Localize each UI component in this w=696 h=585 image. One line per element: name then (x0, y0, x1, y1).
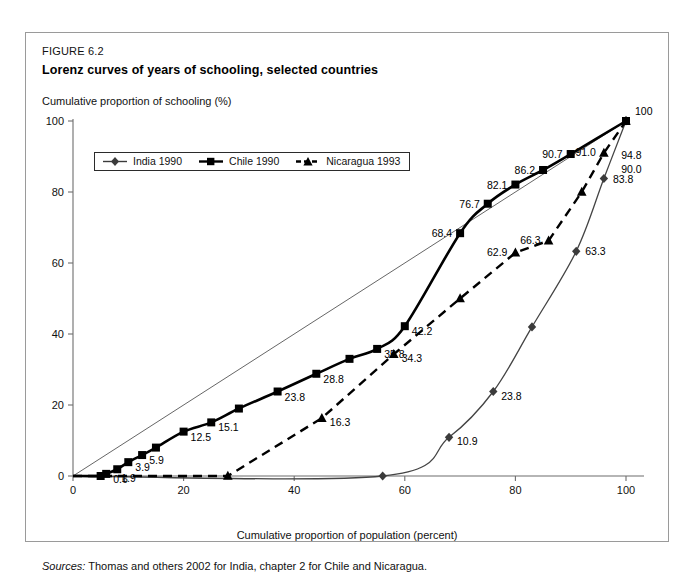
y-tick-label: 60 (52, 257, 64, 269)
figure-number: FIGURE 6.2 (42, 45, 104, 57)
legend-entry-chile-1990[interactable]: Chile 1990 (198, 156, 279, 167)
data-point-marker (511, 181, 519, 189)
data-point-marker (235, 405, 243, 413)
data-point-marker (539, 166, 547, 174)
data-point-label: 34.3 (402, 352, 423, 364)
data-point-label: 23.8 (285, 391, 306, 403)
data-point-label: 100 (635, 105, 653, 117)
data-point-label: 63.3 (585, 245, 606, 257)
data-point-marker (484, 200, 492, 208)
data-point-label: 76.7 (459, 198, 480, 210)
legend-entry-nicaragua-1993[interactable]: Nicaragua 1993 (295, 156, 400, 167)
data-point-marker (180, 428, 188, 436)
figure-panel: FIGURE 6.2 Lorenz curves of years of sch… (25, 32, 669, 542)
x-tick-label: 100 (617, 484, 635, 496)
lorenz-curve-chart: 02040608010002040608010010.923.863.383.8… (73, 121, 626, 476)
chart-plot-area: 02040608010002040608010010.923.863.383.8… (73, 121, 626, 476)
data-point-marker (152, 444, 160, 452)
data-point-marker (207, 418, 215, 426)
data-point-label: 12.5 (191, 431, 212, 443)
data-point-marker (528, 322, 536, 331)
data-point-label: 16.3 (330, 416, 351, 428)
data-point-label: 15.1 (218, 421, 239, 433)
x-tick-label: 60 (399, 484, 411, 496)
data-point-label: 66.3 (520, 234, 541, 246)
chart-legend: India 1990Chile 1990Nicaragua 1993 (94, 152, 410, 171)
figure-title: Lorenz curves of years of schooling, sel… (42, 63, 378, 77)
x-tick-label: 0 (70, 484, 76, 496)
y-tick-label: 0 (58, 470, 64, 482)
data-point-label: 28.8 (323, 373, 344, 385)
data-point-label: 86.2 (515, 164, 536, 176)
data-point-label: 10.9 (457, 435, 478, 447)
data-point-label: 62.9 (487, 246, 508, 258)
x-axis-title: Cumulative proportion of population (per… (26, 529, 668, 541)
data-point-marker (567, 150, 575, 158)
data-point-marker (401, 322, 409, 330)
sources-text: Thomas and others 2002 for India, chapte… (88, 560, 427, 572)
legend-entry-india-1990[interactable]: India 1990 (102, 156, 182, 167)
data-point-label: 5.9 (149, 454, 164, 466)
legend-label: Chile 1990 (229, 156, 279, 167)
diamond-marker-icon (102, 156, 128, 167)
data-point-label: 90.0 (621, 163, 642, 175)
data-point-label: 1.9 (121, 472, 136, 484)
data-point-label: 42.2 (412, 325, 433, 337)
y-tick-label: 40 (52, 328, 64, 340)
data-point-label: 23.8 (501, 390, 522, 402)
y-tick-label: 20 (52, 399, 64, 411)
square-marker-icon (198, 156, 224, 167)
y-axis-title: Cumulative proportion of schooling (%) (42, 95, 232, 107)
data-point-marker (138, 451, 146, 459)
x-tick-label: 20 (177, 484, 189, 496)
legend-label: Nicaragua 1993 (326, 156, 400, 167)
data-point-marker (373, 345, 381, 353)
data-point-marker (572, 247, 580, 256)
x-tick-label: 80 (509, 484, 521, 496)
data-point-marker (102, 470, 110, 478)
data-point-label: 82.1 (487, 179, 508, 191)
x-tick-label: 40 (288, 484, 300, 496)
legend-label: India 1990 (133, 156, 182, 167)
data-point-label: 90.7 (542, 148, 563, 160)
sources-note: Sources: Thomas and others 2002 for Indi… (42, 560, 427, 572)
data-point-marker (600, 174, 608, 183)
data-point-marker (274, 388, 282, 396)
data-point-marker (124, 458, 132, 466)
data-point-marker (456, 229, 464, 237)
sources-label: Sources: (42, 560, 85, 572)
data-point-label: 91.0 (575, 146, 596, 158)
data-point-label: 68.4 (432, 227, 453, 239)
data-point-marker (378, 471, 386, 480)
data-point-label: 94.8 (621, 149, 642, 161)
y-tick-label: 100 (46, 115, 64, 127)
data-point-label: 3.9 (135, 461, 150, 473)
data-point-marker (346, 355, 354, 363)
data-point-marker (511, 248, 521, 257)
data-point-marker (312, 370, 320, 378)
triangle-marker-icon (295, 156, 321, 167)
y-tick-label: 80 (52, 186, 64, 198)
